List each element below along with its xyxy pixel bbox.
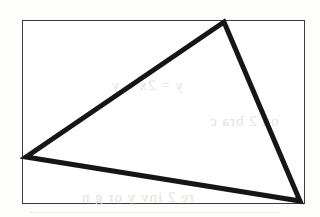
figure-root: y = 2x + y on 2 bra c re 2 inv y or g n bbox=[0, 0, 320, 217]
triangle-polygon bbox=[26, 22, 300, 201]
triangle-drawing bbox=[0, 0, 320, 217]
